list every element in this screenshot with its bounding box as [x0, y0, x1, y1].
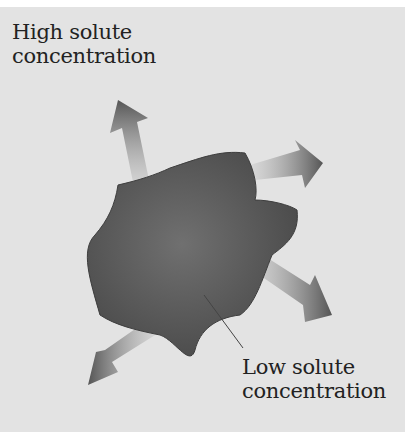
arrow-up-right-icon — [250, 140, 323, 188]
cell-shape — [87, 152, 297, 356]
label-high-solute: High solute concentration — [12, 20, 156, 68]
label-low-solute: Low solute concentration — [242, 355, 386, 403]
